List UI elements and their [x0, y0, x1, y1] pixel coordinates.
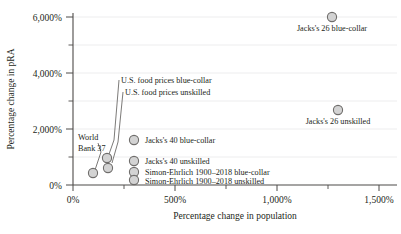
- y-tick-label: 6,000%: [33, 13, 62, 23]
- y-tick-label: 2,000%: [33, 125, 62, 135]
- scatter-chart: 6,000% 4,000% 2,000% 0% 0% 500% 1,000% 1…: [0, 0, 401, 234]
- x-tick-labels: 0% 500% 1,000% 1,500%: [67, 195, 394, 205]
- point-label-jacks-40-unskilled: Jacks's 40 unskilled: [145, 157, 210, 166]
- data-point-jacks-40-unskilled[interactable]: [129, 156, 138, 165]
- point-label-world-bank-37-line1: World: [78, 133, 98, 142]
- y-tick-label: 0%: [49, 181, 62, 191]
- point-label-simon-ehrlich-blue-collar: Simon-Ehrlich 1900–2018 blue-collar: [145, 168, 270, 177]
- data-point-jacks-26-unskilled[interactable]: [333, 105, 342, 114]
- point-label-world-bank-37-line2: Bank 37: [78, 144, 106, 153]
- x-axis-title: Percentage change in population: [173, 211, 297, 221]
- y-axis-title: Percentage change in pRA: [6, 48, 16, 149]
- data-point-simon-ehrlich-unskilled[interactable]: [129, 175, 138, 184]
- y-axis: [66, 13, 73, 185]
- y-tick-labels: 6,000% 4,000% 2,000% 0%: [33, 13, 62, 191]
- data-point-jacks-26-blue-collar[interactable]: [327, 12, 336, 21]
- x-tick-label: 1,000%: [262, 195, 291, 205]
- point-label-jacks-26-blue-collar: Jacks's 26 blue-collar: [297, 24, 367, 33]
- data-point-jacks-40-blue-collar[interactable]: [129, 135, 138, 144]
- point-label-jacks-40-blue-collar: Jacks's 40 blue-collar: [145, 136, 215, 145]
- data-point-world-bank-37[interactable]: [88, 168, 97, 177]
- data-points: [88, 12, 342, 184]
- gridlines: [73, 17, 397, 157]
- y-tick-label: 4,000%: [33, 69, 62, 79]
- data-point-us-food-prices-blue-collar[interactable]: [102, 153, 111, 162]
- point-label-simon-ehrlich-unskilled: Simon-Ehrlich 1900–2018 unskilled: [145, 177, 264, 186]
- point-label-jacks-26-unskilled: Jacks's 26 unskilled: [306, 117, 371, 126]
- x-tick-label: 500%: [164, 195, 186, 205]
- chart-canvas: 6,000% 4,000% 2,000% 0% 0% 500% 1,000% 1…: [0, 0, 401, 234]
- point-label-us-food-prices-unskilled: U.S. food prices unskilled: [125, 88, 210, 97]
- x-tick-label: 1,500%: [364, 195, 393, 205]
- point-label-us-food-prices-blue-collar: U.S. food prices blue-collar: [121, 76, 212, 85]
- data-point-us-food-prices-unskilled[interactable]: [103, 163, 112, 172]
- x-tick-label: 0%: [67, 195, 80, 205]
